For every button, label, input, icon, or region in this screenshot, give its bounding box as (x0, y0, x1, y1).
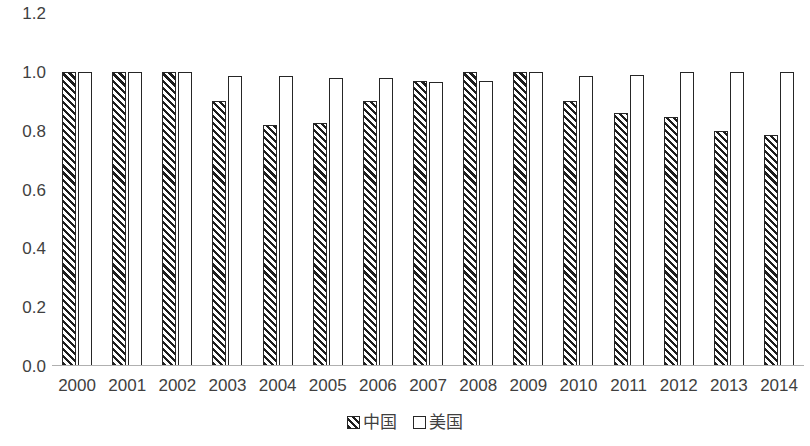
x-tick-label: 2014 (754, 366, 804, 400)
bar-china[interactable] (463, 72, 477, 366)
bar-group (353, 13, 403, 366)
bar-group (453, 13, 503, 366)
y-axis: 1.21.00.80.60.40.20.0 (0, 0, 52, 380)
bar-china[interactable] (263, 125, 277, 366)
bar-usa[interactable] (279, 76, 293, 366)
bar-china[interactable] (764, 135, 778, 366)
bar-group (654, 13, 704, 366)
x-axis: 2000200120022003200420052006200720082009… (52, 366, 804, 400)
chart-legend: 中国美国 (0, 414, 810, 431)
x-tick-label: 2001 (102, 366, 152, 400)
bar-group (202, 13, 252, 366)
bar-usa[interactable] (579, 76, 593, 366)
bar-group (403, 13, 453, 366)
legend-entry[interactable]: 美国 (413, 414, 463, 431)
plot-area (52, 13, 804, 366)
legend-label: 美国 (429, 414, 463, 431)
bar-group (503, 13, 553, 366)
bar-china[interactable] (212, 101, 226, 366)
bar-group (604, 13, 654, 366)
bar-china[interactable] (112, 72, 126, 366)
bar-china[interactable] (413, 81, 427, 366)
y-tick-label: 1.0 (22, 63, 46, 80)
bar-group (253, 13, 303, 366)
y-tick-label: 0.8 (22, 122, 46, 139)
y-tick-label: 1.2 (22, 5, 46, 22)
x-tick-label: 2005 (303, 366, 353, 400)
x-tick-label: 2007 (403, 366, 453, 400)
y-tick-label: 0.2 (22, 299, 46, 316)
bar-china[interactable] (563, 101, 577, 366)
bar-usa[interactable] (529, 72, 543, 366)
bar-china[interactable] (714, 131, 728, 366)
bar-usa[interactable] (178, 72, 192, 366)
bar-usa[interactable] (379, 78, 393, 366)
bar-usa[interactable] (479, 81, 493, 366)
open-swatch-icon (413, 416, 426, 429)
bar-group (152, 13, 202, 366)
bar-china[interactable] (62, 72, 76, 366)
bar-chart: 1.21.00.80.60.40.20.0 200020012002200320… (0, 0, 810, 446)
y-tick-label: 0.6 (22, 181, 46, 198)
y-tick-label: 0.0 (22, 358, 46, 375)
hatched-swatch-icon (347, 416, 360, 429)
bar-group (754, 13, 804, 366)
bar-china[interactable] (614, 113, 628, 366)
bar-usa[interactable] (730, 72, 744, 366)
bar-group (704, 13, 754, 366)
bar-usa[interactable] (680, 72, 694, 366)
legend-label: 中国 (363, 414, 397, 431)
bar-group (52, 13, 102, 366)
bar-china[interactable] (664, 117, 678, 366)
bar-usa[interactable] (630, 75, 644, 366)
x-tick-label: 2013 (704, 366, 754, 400)
y-tick-label: 0.4 (22, 240, 46, 257)
x-tick-label: 2011 (604, 366, 654, 400)
legend-entry[interactable]: 中国 (347, 414, 397, 431)
bar-group (553, 13, 603, 366)
x-tick-label: 2003 (202, 366, 252, 400)
bar-china[interactable] (363, 101, 377, 366)
bar-usa[interactable] (228, 76, 242, 366)
bar-china[interactable] (313, 123, 327, 366)
x-tick-label: 2008 (453, 366, 503, 400)
bar-groups (52, 13, 804, 366)
bar-usa[interactable] (128, 72, 142, 366)
bar-usa[interactable] (78, 72, 92, 366)
bar-group (102, 13, 152, 366)
bar-usa[interactable] (780, 72, 794, 366)
bar-usa[interactable] (329, 78, 343, 366)
bar-china[interactable] (162, 72, 176, 366)
bar-china[interactable] (513, 72, 527, 366)
x-tick-label: 2012 (654, 366, 704, 400)
x-tick-label: 2004 (253, 366, 303, 400)
bar-group (303, 13, 353, 366)
x-tick-label: 2009 (503, 366, 553, 400)
x-tick-label: 2000 (52, 366, 102, 400)
x-tick-label: 2002 (152, 366, 202, 400)
bar-usa[interactable] (429, 82, 443, 366)
x-tick-label: 2010 (553, 366, 603, 400)
x-tick-label: 2006 (353, 366, 403, 400)
